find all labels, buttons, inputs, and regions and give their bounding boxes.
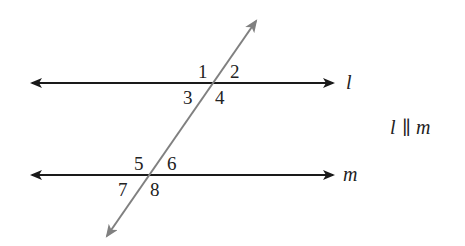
parallel-statement-left: l <box>390 116 396 138</box>
angle-3-label: 3 <box>183 87 193 108</box>
angle-2-label: 2 <box>230 61 240 82</box>
line-l-label: l <box>346 71 352 93</box>
transversal <box>107 21 256 236</box>
parallel-lines-diagram: 1 2 3 4 5 6 7 8 l m l ∥ m <box>0 0 465 246</box>
angle-4-label: 4 <box>215 87 225 108</box>
angle-6-label: 6 <box>167 153 177 174</box>
angle-7-label: 7 <box>118 179 128 200</box>
parallel-symbol: ∥ <box>402 117 411 138</box>
angle-8-label: 8 <box>150 179 160 200</box>
angle-5-label: 5 <box>134 153 144 174</box>
angle-1-label: 1 <box>198 61 208 82</box>
parallel-statement-right: m <box>416 116 430 138</box>
line-m-label: m <box>343 163 357 185</box>
